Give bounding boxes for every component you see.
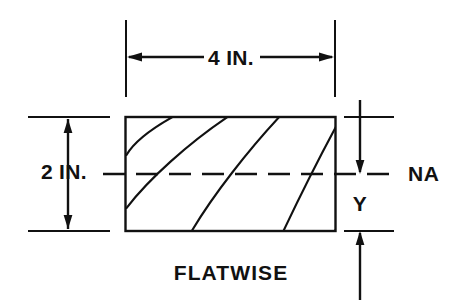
y-arrow-up [356,231,365,245]
neutral-axis-group: NA [103,162,440,185]
y-dimension-label: Y [353,192,367,215]
grain-rings-group [127,112,405,234]
grain-ring-5 [334,112,404,233]
height-arrow-bottom [64,215,73,229]
width-dimension-label: 4 IN. [208,46,254,69]
neutral-axis-label: NA [408,162,440,185]
figure-canvas: 4 IN. 2 IN. NA [0,0,465,304]
y-arrow-down [356,160,365,174]
width-arrow-right [319,53,334,62]
grain-ring-1 [127,114,179,155]
width-dimension-group: 4 IN. [126,20,335,97]
height-dimension-group: 2 IN. [28,117,110,231]
flatwise-section-diagram: 4 IN. 2 IN. NA [0,0,465,304]
height-dimension-label: 2 IN. [41,160,87,183]
figure-caption: FLATWISE [174,261,289,284]
y-dimension-group: Y [344,100,394,300]
height-arrow-top [64,119,73,133]
width-arrow-left [127,53,142,62]
